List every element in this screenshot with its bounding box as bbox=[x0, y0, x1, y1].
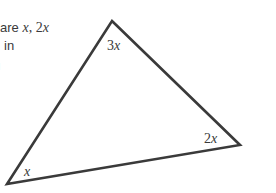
triangle-diagram: 3x 2x x bbox=[0, 0, 276, 193]
angle-label-top: 3x bbox=[107, 38, 121, 53]
triangle-shape bbox=[7, 21, 240, 184]
diagram-canvas: are x, 2x in ı 3x 2x x bbox=[0, 0, 276, 193]
angle-label-right: 2x bbox=[204, 131, 218, 146]
angle-label-bottom-left: x bbox=[23, 164, 31, 179]
